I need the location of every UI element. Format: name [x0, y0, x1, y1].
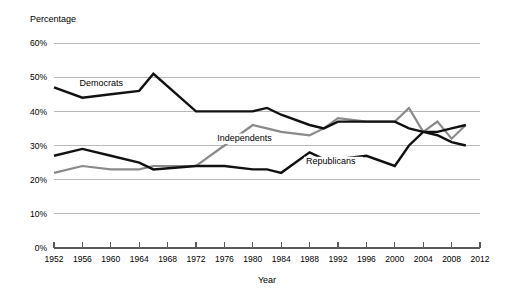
- series-label-democrats: Democrats: [80, 78, 124, 88]
- x-tick-label-1976: 1976: [215, 254, 234, 264]
- x-tick-label-1968: 1968: [158, 254, 177, 264]
- y-tick-label-0: 0%: [35, 243, 48, 253]
- x-tick-label-2004: 2004: [414, 254, 433, 264]
- x-axis-title: Year: [258, 275, 276, 285]
- x-tick-label-2008: 2008: [442, 254, 461, 264]
- y-axis-title: Percentage: [30, 14, 76, 24]
- y-tick-label-30: 30%: [30, 141, 47, 151]
- y-tick-label-50: 50%: [30, 72, 47, 82]
- x-tick-label-1988: 1988: [300, 254, 319, 264]
- x-tick-label-1960: 1960: [101, 254, 120, 264]
- x-tick-label-1996: 1996: [357, 254, 376, 264]
- y-tick-label-10: 10%: [30, 209, 47, 219]
- x-tick-label-1964: 1964: [130, 254, 149, 264]
- x-tick-label-2000: 2000: [385, 254, 404, 264]
- y-tick-label-60: 60%: [30, 38, 47, 48]
- x-tick-label-1956: 1956: [73, 254, 92, 264]
- y-tick-label-20: 20%: [30, 175, 47, 185]
- series-label-independents: Independents: [217, 133, 272, 143]
- chart-container: Percentage0%10%20%30%40%50%60%1952195619…: [0, 0, 514, 296]
- x-tick-label-1984: 1984: [272, 254, 291, 264]
- y-tick-label-40: 40%: [30, 107, 47, 117]
- x-tick-label-2012: 2012: [471, 254, 490, 264]
- x-tick-label-1972: 1972: [187, 254, 206, 264]
- series-label-republicans: Republicans: [306, 156, 356, 166]
- x-tick-label-1980: 1980: [243, 254, 262, 264]
- line-chart: Percentage0%10%20%30%40%50%60%1952195619…: [0, 0, 514, 296]
- x-tick-label-1952: 1952: [45, 254, 64, 264]
- x-tick-label-1992: 1992: [329, 254, 348, 264]
